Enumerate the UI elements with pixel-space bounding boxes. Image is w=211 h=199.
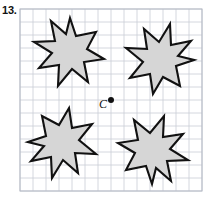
center-point-label: C: [99, 97, 108, 111]
geometry-figure: C: [0, 0, 211, 199]
star-bottom-left-polygon: [28, 108, 96, 178]
figure-container: 13. C: [0, 0, 211, 199]
star-bottom-left: [28, 108, 96, 178]
star-top-left: [34, 18, 104, 86]
star-top-left-polygon: [34, 18, 104, 86]
star-top-right: [126, 24, 194, 94]
star-top-right-polygon: [126, 24, 194, 94]
center-point-dot: [108, 97, 114, 103]
